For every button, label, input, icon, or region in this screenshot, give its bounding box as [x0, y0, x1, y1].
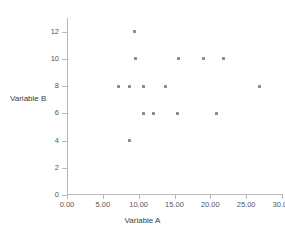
- x-tick-label: 20.00: [190, 201, 230, 209]
- x-tick-label: 25.00: [226, 201, 266, 209]
- data-point: [202, 57, 205, 60]
- data-point: [222, 57, 225, 60]
- data-point: [142, 112, 145, 115]
- y-tick-label: 6: [41, 109, 59, 117]
- x-tick: [139, 194, 140, 199]
- y-tick-label: 12: [41, 28, 59, 36]
- data-point: [258, 85, 261, 88]
- data-point: [133, 30, 136, 33]
- scatter-chart: Variable B Variable A 0246810120.005.001…: [0, 0, 285, 236]
- y-tick: [62, 141, 67, 142]
- y-tick-label: 8: [41, 82, 59, 90]
- data-point: [152, 112, 155, 115]
- y-tick-label: 0: [41, 191, 59, 199]
- x-tick: [103, 194, 104, 199]
- y-tick-label: 2: [41, 164, 59, 172]
- y-tick: [62, 86, 67, 87]
- x-tick: [175, 194, 176, 199]
- x-tick-label: 15.00: [155, 201, 195, 209]
- x-tick-label: 10.00: [119, 201, 159, 209]
- x-tick: [67, 194, 68, 199]
- data-point: [142, 85, 145, 88]
- data-point: [176, 112, 179, 115]
- x-tick: [282, 194, 283, 199]
- y-axis-title: Variable B: [10, 94, 46, 103]
- plot-area: [67, 18, 282, 195]
- data-point: [134, 57, 137, 60]
- y-tick: [62, 59, 67, 60]
- data-point: [128, 85, 131, 88]
- x-tick-label: 0.00: [47, 201, 87, 209]
- x-tick-label: 5.00: [83, 201, 123, 209]
- data-point: [164, 85, 167, 88]
- x-tick: [246, 194, 247, 199]
- y-tick: [62, 32, 67, 33]
- data-point: [128, 139, 131, 142]
- data-point: [215, 112, 218, 115]
- x-tick-label: 30.00: [262, 201, 285, 209]
- data-point: [117, 85, 120, 88]
- x-axis-title: Variable A: [0, 216, 285, 225]
- x-tick: [210, 194, 211, 199]
- y-tick: [62, 113, 67, 114]
- y-tick-label: 10: [41, 55, 59, 63]
- y-tick-label: 4: [41, 137, 59, 145]
- y-tick: [62, 168, 67, 169]
- data-point: [177, 57, 180, 60]
